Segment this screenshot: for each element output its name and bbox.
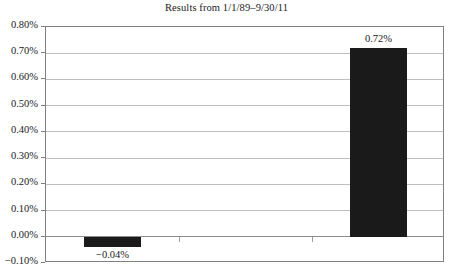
bar-data-label: 0.72% [312,33,445,44]
y-axis-tick-mark [41,183,45,184]
bar-data-label: −0.04% [46,249,179,260]
y-axis-tick-mark [41,26,45,27]
y-axis-tick-mark [41,131,45,132]
chart-title: Results from 1/1/89–9/30/11 [0,2,453,13]
y-axis-tick-label: 0.20% [0,176,38,187]
y-axis-tick-mark [41,52,45,53]
y-axis-tick-label: 0.70% [0,45,38,56]
y-axis-tick-mark [41,105,45,106]
y-axis-tick-label: 0.10% [0,203,38,214]
y-axis-tick-label: 0.00% [0,229,38,240]
y-axis-tick-label: 0.40% [0,124,38,135]
y-axis-tick-label: 0.80% [0,19,38,30]
x-axis-tick-mark [312,237,313,242]
y-axis-tick-mark [41,236,45,237]
bar-chart: Results from 1/1/89–9/30/11 −0.04%0.72% … [0,0,453,273]
y-axis-tick-mark [41,78,45,79]
y-axis-tick-label: 0.50% [0,98,38,109]
y-axis-tick-mark [41,262,45,263]
y-axis-tick-mark [41,157,45,158]
y-axis-tick-label: −0.10% [0,255,38,266]
y-axis-tick-label: 0.30% [0,150,38,161]
y-axis-tick-label: 0.60% [0,71,38,82]
plot-area: −0.04%0.72% [45,26,444,262]
bar [84,237,141,247]
bar [350,48,407,237]
x-axis-tick-mark [179,237,180,242]
y-axis-tick-mark [41,210,45,211]
